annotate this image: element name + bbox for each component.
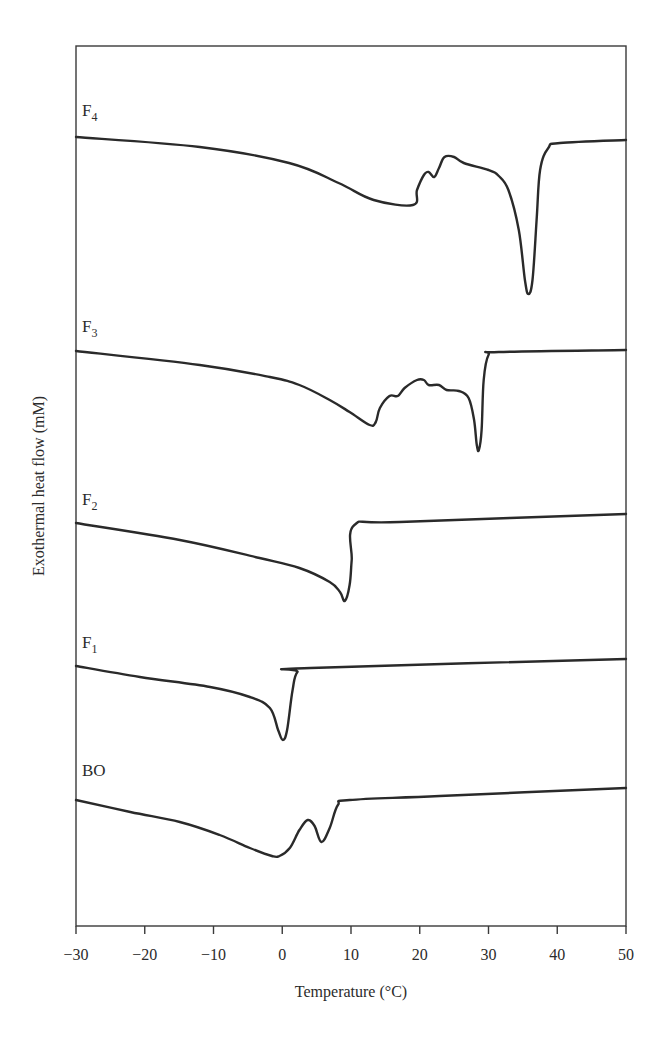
x-tick-label: −10 [201,946,226,963]
y-axis-label: Exothermal heat flow (mM) [30,396,48,576]
series-label-f2: F2 [82,490,97,513]
series-label-bo: BO [82,761,106,780]
curves [76,137,626,857]
x-tick-label: 0 [278,946,286,963]
dsc-chart: −30−20−1001020304050 F4F3F2F1BO Temperat… [0,0,660,1041]
series-label-f4: F4 [82,101,97,124]
x-tick-label: 40 [549,946,565,963]
x-tick-label: 20 [412,946,428,963]
x-tick-label: 50 [618,946,634,963]
series-label-f1: F1 [82,633,97,656]
curve-f4 [76,137,626,294]
x-tick-label: −30 [63,946,88,963]
x-tick-label: 30 [481,946,497,963]
series-label-f3: F3 [82,317,97,340]
curve-f3 [76,350,626,451]
x-tick-label: −20 [132,946,157,963]
plot-border [76,46,626,926]
plot-frame [76,46,626,926]
curve-f1 [76,659,626,740]
series-labels: F4F3F2F1BO [82,101,106,780]
curve-bo [76,788,626,857]
x-axis-label: Temperature (°C) [295,983,407,1001]
curve-f2 [76,514,626,601]
x-tick-label: 10 [343,946,359,963]
x-axis-ticks: −30−20−1001020304050 [63,926,634,963]
